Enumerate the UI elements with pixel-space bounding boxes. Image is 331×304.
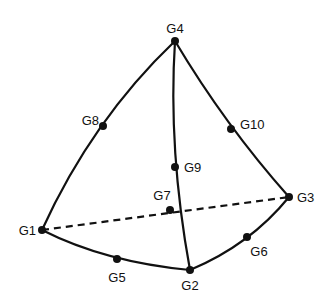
node-g5 [113, 255, 121, 263]
tetrahedron-diagram: G1G2G3G4G5G6G7G8G9G10 [0, 0, 331, 304]
node-label-g9: G9 [184, 160, 201, 175]
node-g10 [227, 125, 235, 133]
node-label-g6: G6 [250, 244, 267, 259]
node-g1 [38, 226, 46, 234]
node-g3 [285, 193, 293, 201]
node-label-g1: G1 [19, 223, 36, 238]
node-g2 [186, 266, 194, 274]
node-g8 [99, 122, 107, 130]
node-label-g7: G7 [153, 188, 170, 203]
edge-g4-g2 [173, 41, 190, 270]
node-g7 [166, 206, 174, 214]
node-g4 [171, 37, 179, 45]
node-g9 [171, 163, 179, 171]
element-edges [42, 41, 289, 270]
node-label-g10: G10 [240, 117, 265, 132]
node-label-g4: G4 [166, 21, 183, 36]
node-labels: G1G2G3G4G5G6G7G8G9G10 [19, 21, 315, 293]
node-g6 [243, 233, 251, 241]
edge-g1-g2 [42, 230, 190, 270]
node-label-g2: G2 [181, 278, 198, 293]
node-label-g3: G3 [297, 190, 314, 205]
edge-g2-g3 [190, 197, 289, 270]
node-label-g5: G5 [108, 270, 125, 285]
node-label-g8: G8 [82, 113, 99, 128]
